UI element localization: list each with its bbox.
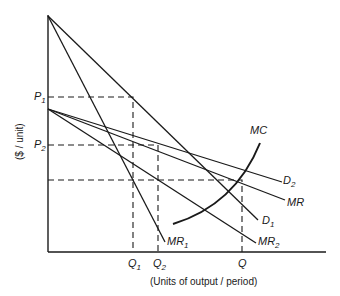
q1-label: Q1 bbox=[128, 257, 141, 272]
q-label: Q bbox=[238, 257, 247, 269]
p2-q2-guide bbox=[48, 145, 158, 252]
d1-label: D1 bbox=[262, 214, 274, 229]
mr2-label: MR2 bbox=[258, 235, 280, 250]
price-discrimination-diagram: MC D2 MR D1 MR1 MR2 P1 P2 Q1 Q2 Q (Units… bbox=[0, 0, 340, 296]
d2-label: D2 bbox=[283, 174, 296, 189]
mr1-curve bbox=[48, 16, 165, 242]
d1-curve bbox=[48, 16, 258, 220]
p1-q1-guide bbox=[48, 97, 133, 252]
y-axis-title: ($ / unit) bbox=[14, 123, 25, 160]
q2-label: Q2 bbox=[153, 257, 167, 272]
x-axis-title: (Units of output / period) bbox=[150, 276, 257, 287]
p2-label: P2 bbox=[34, 138, 46, 153]
mr-label: MR bbox=[287, 196, 304, 208]
mr2-curve bbox=[48, 109, 256, 243]
mr1-label: MR1 bbox=[167, 235, 189, 250]
mc-curve bbox=[173, 143, 260, 224]
mr-curve bbox=[48, 109, 285, 200]
mc-label: MC bbox=[250, 124, 267, 136]
p1-label: P1 bbox=[34, 90, 46, 105]
